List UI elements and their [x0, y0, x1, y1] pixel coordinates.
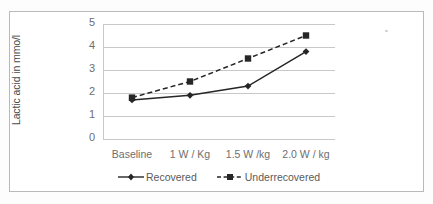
legend-swatch-solid-diamond	[118, 172, 144, 182]
gridlines	[103, 24, 335, 139]
legend-swatch-dashed-square	[217, 172, 243, 182]
data-point-marker	[187, 78, 193, 84]
legend-item-underrecovered: Underrecovered	[217, 171, 320, 183]
data-point-marker	[245, 55, 251, 61]
legend-label-underrecovered: Underrecovered	[245, 171, 320, 183]
legend-label-recovered: Recovered	[146, 171, 197, 183]
data-point-marker	[245, 83, 252, 90]
data-point-marker	[303, 48, 310, 55]
data-point-marker	[303, 32, 309, 38]
data-point-marker	[129, 94, 135, 100]
legend-item-recovered: Recovered	[118, 171, 197, 183]
scan-speck-artifact	[385, 30, 388, 32]
chart-figure: Lactic acid in mmo/l 012345 Baseline1 W …	[0, 0, 433, 204]
chart-legend: Recovered Underrecovered	[118, 168, 338, 186]
